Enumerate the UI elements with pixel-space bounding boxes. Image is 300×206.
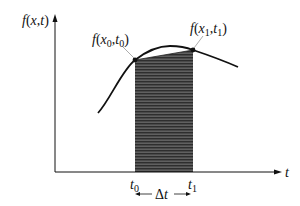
x-axis-arrow-icon xyxy=(274,170,282,175)
integration-diagram: f(x,t) f(x0,t0) f(x1,t1) t t0 t1 Δt xyxy=(0,0,300,206)
point-1-leader xyxy=(194,36,203,48)
tick-t1-label: t1 xyxy=(188,177,197,194)
shaded-area xyxy=(135,50,193,172)
point-1-label: f(x1,t1) xyxy=(190,21,227,38)
interval-label: Δt xyxy=(155,187,169,202)
y-axis-label: f(x,t) xyxy=(22,13,49,29)
point-0-marker xyxy=(133,58,138,63)
interval-right-arrowhead-icon xyxy=(186,192,191,196)
point-0-leader xyxy=(123,47,134,58)
tick-t0-label: t0 xyxy=(130,177,139,194)
x-axis-label: t xyxy=(285,165,290,180)
y-axis-arrow-icon xyxy=(53,14,58,22)
point-0-label: f(x0,t0) xyxy=(92,32,129,49)
point-1-marker xyxy=(191,48,196,53)
